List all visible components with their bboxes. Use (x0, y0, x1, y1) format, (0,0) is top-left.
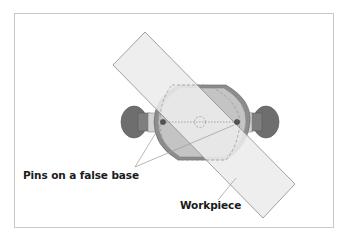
left-clamp-knob (121, 106, 156, 138)
pins-label: Pins on a false base (23, 169, 139, 181)
right-pin (234, 119, 239, 124)
workpiece-label: Workpiece (180, 199, 241, 211)
fixture-diagram (0, 0, 345, 236)
left-pin (160, 119, 165, 124)
